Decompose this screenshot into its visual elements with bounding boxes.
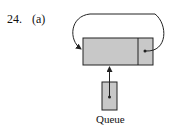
list-node (83, 38, 153, 65)
queue-label: Queue (96, 113, 125, 125)
diagram-root: 24. (a) Queue (0, 0, 177, 130)
linked-queue-diagram (0, 0, 177, 130)
